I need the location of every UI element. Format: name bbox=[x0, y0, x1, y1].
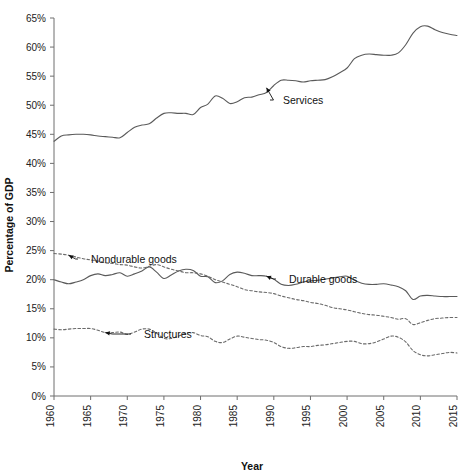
x-tick-label: 2015 bbox=[448, 405, 459, 428]
y-tick-label: 15% bbox=[26, 303, 46, 314]
series-label-structures: Structures bbox=[144, 328, 192, 340]
x-tick-label: 2005 bbox=[375, 405, 386, 428]
chart-container: 0%5%10%15%20%25%30%35%40%45%50%55%60%65%… bbox=[0, 0, 469, 476]
y-tick-label: 40% bbox=[26, 158, 46, 169]
y-tick-label: 5% bbox=[32, 361, 47, 372]
series-line-services bbox=[54, 26, 457, 141]
y-tick-label: 20% bbox=[26, 274, 46, 285]
x-tick-label: 1960 bbox=[45, 405, 56, 428]
annotation-arrowhead bbox=[105, 331, 110, 335]
y-tick-label: 45% bbox=[26, 129, 46, 140]
x-tick-label: 1990 bbox=[265, 405, 276, 428]
series-paths bbox=[54, 26, 457, 356]
series-annotations: ServicesDurable goodsNondurable goodsStr… bbox=[69, 88, 358, 340]
x-tick-label: 1980 bbox=[192, 405, 203, 428]
y-tick-label: 60% bbox=[26, 42, 46, 53]
y-tick-label: 65% bbox=[26, 13, 46, 24]
y-tick-label: 25% bbox=[26, 245, 46, 256]
x-axis-ticks: 1960196519701975198019851990199520002005… bbox=[45, 396, 459, 427]
x-tick-label: 2010 bbox=[411, 405, 422, 428]
y-tick-label: 0% bbox=[32, 391, 47, 402]
y-tick-label: 30% bbox=[26, 216, 46, 227]
series-label-services: Services bbox=[283, 94, 323, 106]
gdp-composition-line-chart: 0%5%10%15%20%25%30%35%40%45%50%55%60%65%… bbox=[0, 0, 469, 476]
y-tick-label: 55% bbox=[26, 71, 46, 82]
y-axis-title: Percentage of GDP bbox=[3, 177, 15, 272]
series-label-durable-goods: Durable goods bbox=[289, 273, 357, 285]
y-tick-label: 35% bbox=[26, 187, 46, 198]
x-tick-label: 1970 bbox=[118, 405, 129, 428]
x-tick-label: 1975 bbox=[155, 405, 166, 428]
y-tick-label: 50% bbox=[26, 100, 46, 111]
series-line-durable-goods bbox=[54, 267, 457, 300]
x-tick-label: 1985 bbox=[228, 405, 239, 428]
y-tick-label: 10% bbox=[26, 332, 46, 343]
x-tick-label: 1995 bbox=[301, 405, 312, 428]
x-axis-title: Year bbox=[241, 460, 263, 472]
y-axis-ticks: 0%5%10%15%20%25%30%35%40%45%50%55%60%65% bbox=[26, 13, 54, 402]
series-label-nondurable-goods: Nondurable goods bbox=[91, 253, 177, 265]
x-tick-label: 2000 bbox=[338, 405, 349, 428]
series-line-structures bbox=[54, 328, 457, 355]
x-tick-label: 1965 bbox=[82, 405, 93, 428]
